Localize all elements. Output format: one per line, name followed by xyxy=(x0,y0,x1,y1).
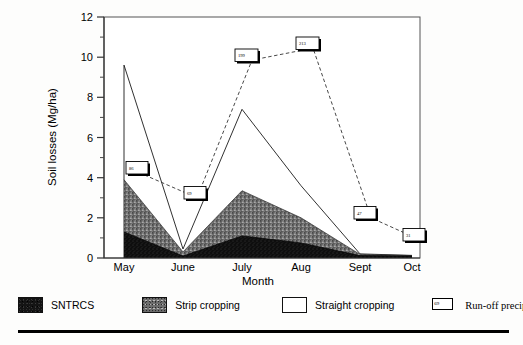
data-label-oct: 31 xyxy=(403,229,427,244)
y-tick-10: 10 xyxy=(81,51,93,63)
y-tick-6: 6 xyxy=(87,132,93,144)
y-axis xyxy=(97,17,104,258)
bottom-rule-divider xyxy=(18,330,509,333)
data-label-aug: 213 xyxy=(296,37,321,52)
data-label-aug-text: 213 xyxy=(299,41,307,46)
legend-swatch-strip-cropping xyxy=(142,297,167,313)
y-tick-8: 8 xyxy=(87,91,93,103)
legend-label-sntrcs: SNTRCS xyxy=(51,299,94,311)
legend-label-straight-cropping: Straight cropping xyxy=(315,299,394,311)
y-axis-title: Soil losses (Mg/ha) xyxy=(46,88,58,186)
legend-label-strip-cropping: Strip cropping xyxy=(175,299,240,311)
legend-item-strip-cropping: Strip cropping xyxy=(142,297,240,313)
x-tick-june: June xyxy=(171,261,195,273)
x-tick-sept: Sept xyxy=(349,261,372,273)
legend-callout-text: 69 xyxy=(434,299,439,308)
legend-item-straight-cropping: Straight cropping xyxy=(282,297,394,313)
data-label-june: 69 xyxy=(184,187,208,202)
legend-swatch-sntrcs xyxy=(18,297,43,313)
x-tick-oct: Oct xyxy=(403,261,420,273)
x-tick-may: May xyxy=(114,261,135,273)
legend-swatch-callout-box: 69 xyxy=(432,298,456,313)
data-label-sept-text: 47 xyxy=(357,211,362,216)
x-tick-labels: May June July Aug Sept Oct xyxy=(114,261,421,273)
data-label-may: 86 xyxy=(126,162,150,177)
legend-item-runoff-precipitation: 69 Run-off precipitation (mm) xyxy=(432,298,523,313)
data-label-july-text: 199 xyxy=(238,53,246,58)
y-tick-2: 2 xyxy=(87,212,93,224)
x-axis-title: Month xyxy=(242,275,274,287)
data-label-june-text: 69 xyxy=(187,191,192,196)
soil-losses-area-chart: 0 2 4 6 8 10 12 Soil losses (Mg/ha) xyxy=(0,0,523,288)
legend-swatch-straight-cropping xyxy=(282,297,307,313)
data-label-sept: 47 xyxy=(354,207,378,222)
y-tick-0: 0 xyxy=(87,252,93,264)
y-tick-12: 12 xyxy=(81,11,93,23)
chart-legend: SNTRCS Strip cropping Straight cropping … xyxy=(0,288,523,322)
x-tick-july: July xyxy=(232,261,252,273)
data-label-oct-text: 31 xyxy=(406,233,411,238)
data-label-july: 199 xyxy=(235,49,260,64)
figure-root: 0 2 4 6 8 10 12 Soil losses (Mg/ha) xyxy=(0,0,523,345)
data-label-may-text: 86 xyxy=(129,166,134,171)
legend-label-runoff-precipitation: Run-off precipitation (mm) xyxy=(465,300,523,311)
y-tick-4: 4 xyxy=(87,172,93,184)
y-tick-labels: 0 2 4 6 8 10 12 xyxy=(81,11,93,264)
x-tick-aug: Aug xyxy=(291,261,311,273)
legend-item-sntrcs: SNTRCS xyxy=(18,297,94,313)
chart-area: 0 2 4 6 8 10 12 Soil losses (Mg/ha) xyxy=(0,0,523,288)
